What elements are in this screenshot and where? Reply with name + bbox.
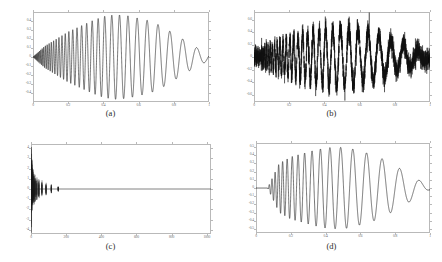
y-tick-mark <box>209 93 211 94</box>
panel-c-y-axis-labels: 43210-1-2-3-4 <box>9 144 29 234</box>
panel-b-plot-area: 0.60.40.20-0.2-0.4-0.6 00.20.40.60.81 <box>254 12 430 102</box>
panel-c-plot-area: 43210-1-2-3-4 02004006008001000 <box>31 144 211 234</box>
signal-trace <box>33 15 209 99</box>
x-tick-mark <box>430 102 431 104</box>
y-tick-mark <box>29 199 31 200</box>
panel-d-y-axis-labels: 0.50.40.30.20.10-0.1-0.2-0.3-0.4-0.5 <box>234 143 254 233</box>
y-tick-mark <box>31 39 33 40</box>
y-tick-mark <box>31 84 33 85</box>
x-tick-mark <box>174 10 175 12</box>
y-tick-mark <box>211 169 213 170</box>
signal-trace <box>254 13 430 101</box>
y-tick-mark <box>209 21 211 22</box>
y-tick-mark <box>254 188 256 189</box>
y-tick-mark <box>211 209 213 210</box>
y-tick-mark <box>211 158 213 159</box>
y-tick-mark <box>254 221 256 222</box>
x-tick-mark <box>256 141 257 143</box>
y-tick-mark <box>29 220 31 221</box>
y-tick-mark <box>252 82 254 83</box>
x-tick-mark <box>360 10 361 12</box>
y-tick-mark <box>430 155 432 156</box>
y-tick-mark <box>430 180 432 181</box>
y-tick-mark <box>430 70 432 71</box>
panel-b-caption: (b) <box>221 108 442 118</box>
y-tick-mark <box>430 95 432 96</box>
x-tick-mark <box>103 102 104 104</box>
panel-a-plot-area: 0.40.30.20.10-0.1-0.2-0.3-0.4 00.20.40.6… <box>33 12 209 102</box>
y-tick-mark <box>211 199 213 200</box>
y-tick-mark <box>430 20 432 21</box>
y-tick-mark <box>209 66 211 67</box>
y-tick-mark <box>31 48 33 49</box>
y-tick-mark <box>31 30 33 31</box>
x-tick-mark <box>289 102 290 104</box>
panel-b-curve <box>254 12 430 102</box>
y-tick-mark <box>254 196 256 197</box>
x-tick-label: 0.6 <box>358 235 362 239</box>
x-tick-label: 1000 <box>203 236 210 240</box>
y-tick-mark <box>430 221 432 222</box>
y-tick-mark <box>29 169 31 170</box>
y-tick-mark <box>254 163 256 164</box>
y-tick-mark <box>209 30 211 31</box>
x-tick-label: 200 <box>64 236 69 240</box>
panel-a-caption: (a) <box>0 108 221 118</box>
x-tick-label: 600 <box>134 236 139 240</box>
y-tick-mark <box>252 20 254 21</box>
panel-a-curve <box>33 12 209 102</box>
panel-a: 0.40.30.20.10-0.1-0.2-0.3-0.4 00.20.40.6… <box>0 0 221 131</box>
y-tick-mark <box>29 148 31 149</box>
y-tick-mark <box>209 84 211 85</box>
y-tick-mark <box>209 48 211 49</box>
x-tick-mark <box>101 234 102 236</box>
y-tick-mark <box>430 229 432 230</box>
panel-c-caption: (c) <box>0 241 221 251</box>
x-tick-mark <box>395 102 396 104</box>
y-tick-mark <box>430 147 432 148</box>
y-tick-mark <box>254 180 256 181</box>
x-tick-mark <box>66 234 67 236</box>
panel-d-caption: (d) <box>221 241 442 251</box>
y-tick-mark <box>31 57 33 58</box>
x-tick-mark <box>136 234 137 236</box>
x-tick-mark <box>395 10 396 12</box>
x-tick-mark <box>209 10 210 12</box>
figure-panel-grid: 0.40.30.20.10-0.1-0.2-0.3-0.4 00.20.40.6… <box>0 0 442 262</box>
x-tick-label: 800 <box>169 236 174 240</box>
x-tick-mark <box>33 10 34 12</box>
x-tick-mark <box>395 233 396 235</box>
y-tick-mark <box>254 155 256 156</box>
x-tick-mark <box>68 102 69 104</box>
x-tick-mark <box>289 10 290 12</box>
x-tick-label: 0.8 <box>393 235 397 239</box>
x-tick-mark <box>172 234 173 236</box>
y-tick-mark <box>430 213 432 214</box>
x-tick-mark <box>31 142 32 144</box>
x-tick-mark <box>207 234 208 236</box>
y-tick-mark <box>254 229 256 230</box>
x-tick-mark <box>68 10 69 12</box>
y-tick-mark <box>29 158 31 159</box>
y-tick-mark <box>209 57 211 58</box>
x-tick-mark <box>256 233 257 235</box>
x-tick-mark <box>66 142 67 144</box>
x-tick-mark <box>101 142 102 144</box>
x-tick-mark <box>254 10 255 12</box>
x-tick-label: 400 <box>99 236 104 240</box>
x-tick-mark <box>33 102 34 104</box>
x-tick-mark <box>139 102 140 104</box>
panel-c: 43210-1-2-3-4 02004006008001000 (c) <box>0 131 221 262</box>
y-tick-mark <box>430 204 432 205</box>
x-tick-mark <box>395 141 396 143</box>
x-tick-mark <box>207 142 208 144</box>
x-tick-mark <box>136 142 137 144</box>
y-tick-mark <box>254 172 256 173</box>
y-tick-mark <box>29 179 31 180</box>
x-tick-label: 0 <box>30 236 32 240</box>
y-tick-mark <box>430 163 432 164</box>
y-tick-mark <box>430 57 432 58</box>
y-tick-mark <box>254 213 256 214</box>
x-tick-mark <box>209 102 210 104</box>
panel-d: 0.50.40.30.20.10-0.1-0.2-0.3-0.4-0.5 00.… <box>221 131 442 262</box>
